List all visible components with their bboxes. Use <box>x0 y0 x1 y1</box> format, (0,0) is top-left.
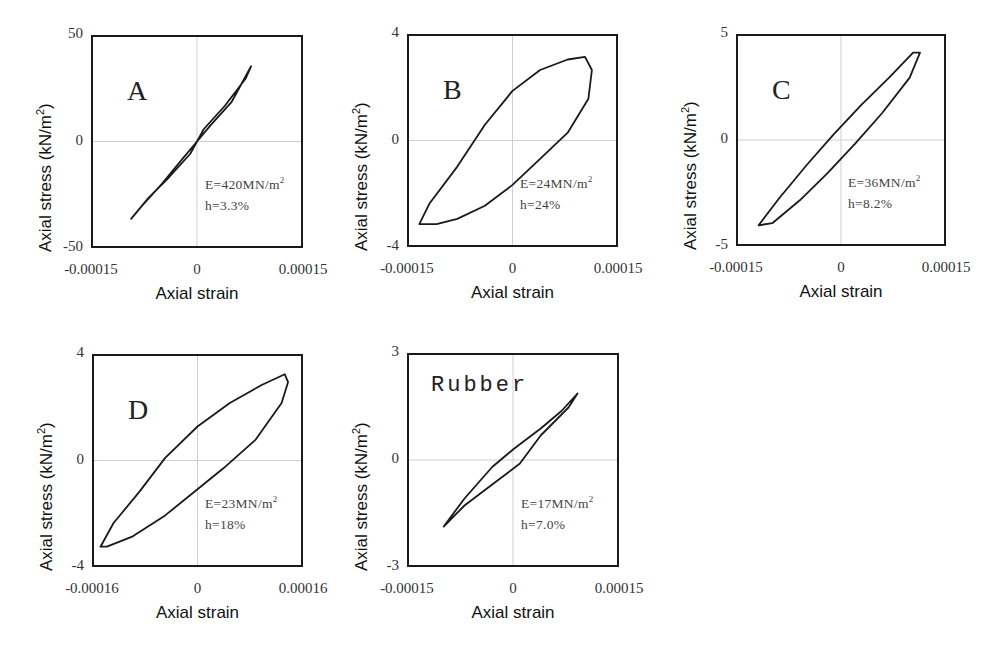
plot-area: B E=24MN/m2 h=24% <box>407 34 618 247</box>
panel-label: B <box>443 74 462 106</box>
plot-area: D E=23MN/m2 h=18% <box>92 354 303 567</box>
damping-text: h=18% <box>205 514 278 535</box>
y-axis-label: Axial stress (kN/m2) <box>350 422 372 571</box>
x-axis-label: Axial strain <box>413 283 613 303</box>
plot-area: C E=36MN/m2 h=8.2% <box>736 34 946 246</box>
modulus-text: E=17MN/m2 <box>521 489 594 514</box>
annotation: E=36MN/m2 h=8.2% <box>848 168 921 214</box>
damping-text: h=3.3% <box>205 195 285 216</box>
x-axis-label: Axial strain <box>98 603 298 623</box>
y-tick-min: -3 <box>359 557 399 574</box>
x-tick-max: 0.00016 <box>258 580 348 597</box>
modulus-text: E=23MN/m2 <box>205 489 278 514</box>
x-tick-zero: 0 <box>468 260 558 277</box>
annotation: E=17MN/m2 h=7.0% <box>521 489 594 535</box>
x-tick-min: -0.00015 <box>46 261 136 278</box>
panel-label: C <box>772 74 791 106</box>
x-tick-zero: 0 <box>468 580 558 597</box>
x-tick-min: -0.00015 <box>362 260 452 277</box>
y-axis-label-superscript: 2 <box>35 428 47 434</box>
x-axis-label: Axial strain <box>413 603 613 623</box>
x-tick-min: -0.00015 <box>362 580 452 597</box>
x-tick-max: 0.00015 <box>901 259 991 276</box>
y-tick-max: 3 <box>359 343 399 360</box>
y-axis-label-superscript: 2 <box>679 107 691 113</box>
modulus-text: E=420MN/m2 <box>205 170 285 195</box>
y-axis-label-superscript: 2 <box>350 108 362 114</box>
y-tick-min: -4 <box>44 557 84 574</box>
y-tick-zero: 0 <box>359 450 399 467</box>
x-tick-max: 0.00015 <box>574 580 664 597</box>
annotation: E=23MN/m2 h=18% <box>205 489 278 535</box>
y-tick-zero: 0 <box>43 132 83 149</box>
y-tick-zero: 0 <box>688 130 728 147</box>
y-tick-zero: 0 <box>359 131 399 148</box>
damping-text: h=8.2% <box>848 193 921 214</box>
y-tick-min: -5 <box>688 236 728 253</box>
plot-area: A E=420MN/m2 h=3.3% <box>91 35 303 248</box>
x-tick-zero: 0 <box>153 580 243 597</box>
y-axis-label-close: ) <box>37 422 56 428</box>
x-tick-zero: 0 <box>152 261 242 278</box>
y-tick-max: 5 <box>688 24 728 41</box>
panel-label: A <box>127 75 147 107</box>
y-axis-label-superscript: 2 <box>350 428 362 434</box>
y-tick-max: 50 <box>43 25 83 42</box>
x-tick-min: -0.00015 <box>691 259 781 276</box>
y-axis-label: Axial stress (kN/m2) <box>350 102 372 251</box>
x-tick-max: 0.00015 <box>258 261 348 278</box>
annotation: E=24MN/m2 h=24% <box>520 169 593 215</box>
panel-label: D <box>128 394 148 426</box>
x-tick-zero: 0 <box>796 259 886 276</box>
damping-text: h=24% <box>520 194 593 215</box>
y-tick-max: 4 <box>359 24 399 41</box>
y-axis-label-close: ) <box>352 422 371 428</box>
y-axis-label-superscript: 2 <box>34 109 46 115</box>
x-tick-max: 0.00015 <box>573 260 663 277</box>
y-axis-label: Axial stress (kN/m2) <box>34 103 56 252</box>
y-tick-max: 4 <box>44 344 84 361</box>
y-axis-label-close: ) <box>681 101 700 107</box>
x-tick-min: -0.00016 <box>47 580 137 597</box>
x-axis-label: Axial strain <box>97 284 297 304</box>
y-axis-label-close: ) <box>352 102 371 108</box>
plot-area: Rubber E=17MN/m2 h=7.0% <box>407 353 619 567</box>
modulus-text: E=24MN/m2 <box>520 169 593 194</box>
x-axis-label: Axial strain <box>741 282 941 302</box>
annotation: E=420MN/m2 h=3.3% <box>205 170 285 216</box>
panel-label: Rubber <box>431 373 528 398</box>
y-tick-zero: 0 <box>44 451 84 468</box>
y-tick-min: -50 <box>43 238 83 255</box>
damping-text: h=7.0% <box>521 514 594 535</box>
y-axis-label-close: ) <box>36 103 55 109</box>
y-axis-label: Axial stress (kN/m2) <box>679 101 701 250</box>
y-tick-min: -4 <box>359 237 399 254</box>
y-axis-label: Axial stress (kN/m2) <box>35 422 57 571</box>
modulus-text: E=36MN/m2 <box>848 168 921 193</box>
